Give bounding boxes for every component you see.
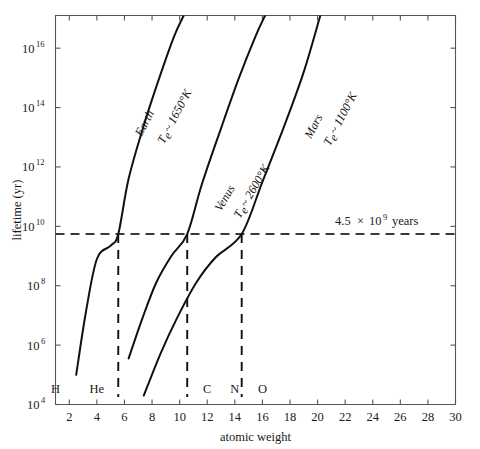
element-label-O: O xyxy=(258,382,267,396)
y-axis-title: lifetime (yr) xyxy=(10,180,24,241)
y-tick-label-6: 10 xyxy=(27,339,40,353)
annotation-exponent: 9 xyxy=(383,212,387,222)
y-tick-label-14: 10 xyxy=(22,101,35,115)
y-tick-label-12: 10 xyxy=(22,160,35,174)
y-tick-label-exponent-12: 12 xyxy=(36,157,45,167)
x-tick-label-18: 18 xyxy=(284,410,297,424)
annotation-times-icon: × xyxy=(357,214,364,228)
x-tick-label-28: 28 xyxy=(422,410,435,424)
element-label-He: He xyxy=(90,382,105,396)
lifetime-vs-atomic-weight-chart: 24681012141618202224262830 1041061081010… xyxy=(0,0,480,449)
x-tick-label-12: 12 xyxy=(201,410,214,424)
x-tick-label-2: 2 xyxy=(66,410,72,424)
x-tick-label-14: 14 xyxy=(229,410,242,424)
y-tick-label-16: 10 xyxy=(22,42,35,56)
x-tick-label-22: 22 xyxy=(339,410,352,424)
annotation-base: 10 xyxy=(369,214,382,228)
y-tick-label-4: 10 xyxy=(27,398,40,412)
x-tick-labels: 24681012141618202224262830 xyxy=(66,410,462,424)
annotation-unit: years xyxy=(392,214,419,228)
x-tick-label-26: 26 xyxy=(394,410,407,424)
x-tick-label-24: 24 xyxy=(366,410,379,424)
element-label-H: H xyxy=(51,382,60,396)
y-tick-label-exponent-6: 6 xyxy=(41,336,45,346)
y-tick-label-exponent-8: 8 xyxy=(41,276,45,286)
x-tick-label-10: 10 xyxy=(173,410,186,424)
x-tick-label-16: 16 xyxy=(256,410,269,424)
y-tick-label-exponent-16: 16 xyxy=(36,39,45,49)
x-tick-label-4: 4 xyxy=(94,410,101,424)
x-tick-label-6: 6 xyxy=(121,410,127,424)
element-label-C: C xyxy=(203,382,211,396)
y-tick-label-exponent-14: 14 xyxy=(36,98,45,108)
element-label-N: N xyxy=(230,382,239,396)
annotation-value: 4.5 xyxy=(335,214,351,228)
x-tick-label-8: 8 xyxy=(149,410,155,424)
x-axis-title: atomic weight xyxy=(220,430,292,444)
x-tick-label-30: 30 xyxy=(449,410,462,424)
annotation-text: 4.5×109years xyxy=(335,212,419,228)
x-tick-label-20: 20 xyxy=(311,410,324,424)
y-tick-label-8: 10 xyxy=(27,279,40,293)
chart-figure: 24681012141618202224262830 1041061081010… xyxy=(0,0,480,449)
y-tick-label-exponent-10: 10 xyxy=(36,217,45,227)
